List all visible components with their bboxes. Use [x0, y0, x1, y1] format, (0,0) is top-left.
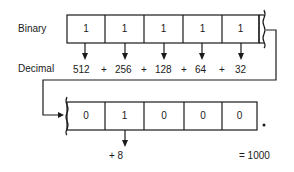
decimal-term: 512	[73, 64, 90, 76]
plus-sign: +	[141, 64, 147, 76]
bottom-bit: 0	[222, 110, 257, 122]
top-bit: 1	[67, 23, 105, 35]
top-bit: 1	[144, 23, 183, 35]
top-bit: 1	[183, 23, 222, 35]
top-bit: 1	[222, 23, 259, 35]
bottom-bit: 0	[144, 110, 184, 122]
bottom-bit: 0	[184, 110, 222, 122]
bottom-bit: 0	[67, 110, 105, 122]
result-value: = 1000	[239, 150, 270, 162]
plus-sign: +	[101, 64, 107, 76]
decimal-label: Decimal	[18, 63, 54, 75]
binary-label: Binary	[18, 23, 46, 35]
top-bit: 1	[105, 23, 144, 35]
plus-sign: +	[181, 64, 187, 76]
decimal-term: 128	[155, 64, 172, 76]
plus-sign: +	[219, 64, 225, 76]
decimal-term: 64	[195, 64, 206, 76]
decimal-term: 256	[115, 64, 132, 76]
decimal-term: + 8	[109, 150, 123, 162]
decimal-term: 32	[235, 64, 246, 76]
bottom-bit: 1	[105, 110, 144, 122]
binary-point	[263, 124, 266, 127]
